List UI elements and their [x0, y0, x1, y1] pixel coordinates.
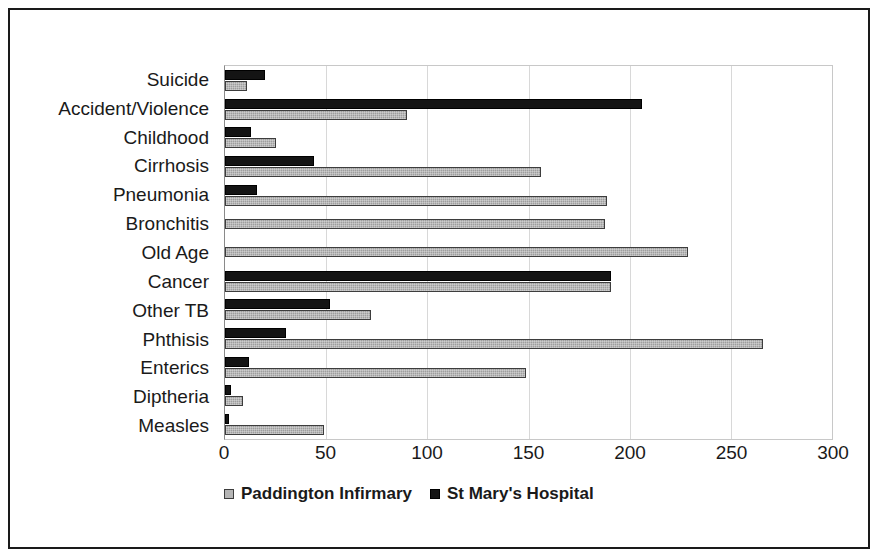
x-axis-tick-label: 100 — [411, 442, 443, 464]
bar-paddington-infirmary[interactable] — [225, 368, 526, 378]
x-axis-tick-label: 50 — [315, 442, 336, 464]
category-label: Measles — [32, 411, 217, 440]
bar-st-marys-hospital[interactable] — [225, 357, 249, 367]
bar-row — [225, 267, 832, 296]
bar-row — [225, 152, 832, 181]
bar-row — [225, 181, 832, 210]
x-axis-tick-label: 0 — [219, 442, 230, 464]
bar-paddington-infirmary[interactable] — [225, 396, 243, 406]
bar-paddington-infirmary[interactable] — [225, 282, 611, 292]
category-label: Other TB — [32, 296, 217, 325]
category-label: Cirrhosis — [32, 152, 217, 181]
legend-item[interactable]: Paddington Infirmary — [224, 484, 412, 504]
bar-row — [225, 296, 832, 325]
bar-st-marys-hospital[interactable] — [225, 328, 286, 338]
bar-row — [225, 95, 832, 124]
bar-row — [225, 410, 832, 439]
bar-rows — [225, 66, 832, 439]
bar-st-marys-hospital[interactable] — [225, 185, 257, 195]
x-axis: 050100150200250300 — [224, 442, 833, 476]
legend-swatch-icon — [430, 489, 440, 499]
bar-row — [225, 324, 832, 353]
category-label: Enterics — [32, 353, 217, 382]
chart-area: SuicideAccident/ViolenceChildhoodCirrhos… — [32, 28, 852, 533]
bar-st-marys-hospital[interactable] — [225, 127, 251, 137]
plot-area — [224, 65, 833, 440]
bar-paddington-infirmary[interactable] — [225, 425, 324, 435]
bar-row — [225, 123, 832, 152]
bar-paddington-infirmary[interactable] — [225, 81, 247, 91]
chart-figure: SuicideAccident/ViolenceChildhoodCirrhos… — [0, 0, 878, 557]
x-axis-tick-label: 300 — [817, 442, 849, 464]
category-label: Bronchitis — [32, 209, 217, 238]
bar-st-marys-hospital[interactable] — [225, 99, 642, 109]
legend-label: St Mary's Hospital — [447, 484, 594, 504]
bar-st-marys-hospital[interactable] — [225, 156, 314, 166]
bar-paddington-infirmary[interactable] — [225, 167, 541, 177]
category-label: Childhood — [32, 123, 217, 152]
bar-paddington-infirmary[interactable] — [225, 310, 371, 320]
x-axis-tick-label: 250 — [716, 442, 748, 464]
category-label: Cancer — [32, 267, 217, 296]
category-label: Diptheria — [32, 382, 217, 411]
x-axis-tick-label: 200 — [614, 442, 646, 464]
bar-paddington-infirmary[interactable] — [225, 339, 763, 349]
bar-paddington-infirmary[interactable] — [225, 219, 605, 229]
category-label: Phthisis — [32, 325, 217, 354]
bar-st-marys-hospital[interactable] — [225, 414, 229, 424]
bar-st-marys-hospital[interactable] — [225, 299, 330, 309]
bar-paddington-infirmary[interactable] — [225, 138, 276, 148]
bar-paddington-infirmary[interactable] — [225, 247, 688, 257]
chart-legend: Paddington InfirmarySt Mary's Hospital — [224, 484, 833, 504]
bar-row — [225, 66, 832, 95]
bar-paddington-infirmary[interactable] — [225, 110, 407, 120]
figure-border: SuicideAccident/ViolenceChildhoodCirrhos… — [8, 8, 870, 549]
plot-wrapper: SuicideAccident/ViolenceChildhoodCirrhos… — [32, 28, 852, 428]
bar-row — [225, 353, 832, 382]
legend-label: Paddington Infirmary — [241, 484, 412, 504]
category-label: Pneumonia — [32, 180, 217, 209]
category-label: Old Age — [32, 238, 217, 267]
legend-swatch-icon — [224, 489, 234, 499]
category-axis-labels: SuicideAccident/ViolenceChildhoodCirrhos… — [32, 65, 217, 440]
legend-item[interactable]: St Mary's Hospital — [430, 484, 594, 504]
category-label: Accident/Violence — [32, 94, 217, 123]
bar-row — [225, 209, 832, 238]
x-axis-tick-label: 150 — [513, 442, 545, 464]
bar-st-marys-hospital[interactable] — [225, 271, 611, 281]
bar-st-marys-hospital[interactable] — [225, 70, 265, 80]
bar-row — [225, 382, 832, 411]
category-label: Suicide — [32, 65, 217, 94]
bar-st-marys-hospital[interactable] — [225, 385, 231, 395]
bar-paddington-infirmary[interactable] — [225, 196, 607, 206]
bar-row — [225, 238, 832, 267]
